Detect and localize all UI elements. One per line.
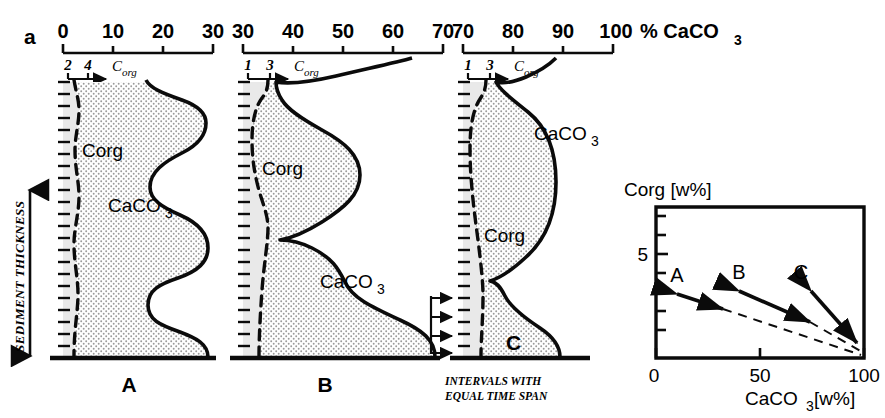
- crossplot-ylabel: Corg [w%]: [624, 179, 712, 200]
- column-C-corg-tick-1: 3: [485, 57, 494, 73]
- column-B-label-caco3-sub: 3: [377, 281, 385, 297]
- column-A-corg-tick-0: 2: [63, 57, 72, 73]
- column-C-label-caco3-sub: 3: [591, 133, 599, 149]
- crossplot-xtick-50: 50: [749, 365, 770, 386]
- column-C-tick-0: 70: [452, 20, 474, 42]
- caco3-unit-label: % CaCO: [640, 20, 719, 42]
- crossplot-xlabel-main: CaCO: [745, 388, 798, 409]
- column-B-tick-1: 40: [282, 20, 304, 42]
- column-C-corg-tick-0: 1: [464, 57, 472, 73]
- crossplot-xtick-100: 100: [848, 365, 880, 386]
- column-C-tick-3: 100: [599, 20, 632, 42]
- column-B-tick-0: 30: [232, 20, 254, 42]
- column-A-label-caco3: CaCO: [108, 195, 161, 216]
- interval-note-line1: INTERVALS WITH: [444, 375, 542, 387]
- crossplot-xlabel-sub: 3: [806, 398, 814, 414]
- column-C-letter: C: [506, 331, 521, 354]
- column-B-tick-3: 60: [382, 20, 404, 42]
- crossplot-label-A: A: [670, 264, 684, 286]
- crossplot-ytick-5: 5: [637, 244, 648, 265]
- column-B-tick-4: 70: [432, 20, 454, 42]
- crossplot-label-B: B: [732, 261, 745, 283]
- column-B-letter: B: [317, 373, 332, 396]
- column-B-corg-tick-1: 3: [265, 57, 274, 73]
- column-C-tick-2: 90: [552, 20, 574, 42]
- column-A-label-caco3-sub: 3: [165, 205, 173, 221]
- column-A-tick-1: 10: [102, 20, 124, 42]
- column-C-label-caco3: CaCO: [534, 123, 587, 144]
- crossplot-xlabel-unit: [w%]: [814, 388, 855, 409]
- column-C-tick-1: 80: [502, 20, 524, 42]
- column-B-corg-axis-label-sub: org: [304, 66, 319, 78]
- column-A-corg-axis-label-sub: org: [122, 66, 137, 78]
- column-A-letter: A: [121, 373, 136, 396]
- column-A-tick-2: 20: [152, 20, 174, 42]
- sediment-thickness-label: SEDIMENT THICKNESS: [12, 201, 27, 352]
- column-B-corg-tick-0: 1: [244, 57, 252, 73]
- column-A-tick-0: 0: [57, 20, 68, 42]
- column-A-label-corg: Corg: [82, 140, 123, 161]
- crossplot-label-C: C: [794, 261, 808, 283]
- column-B-tick-2: 50: [332, 20, 354, 42]
- column-B-label-caco3: CaCO: [320, 271, 373, 292]
- caco3-unit-sub: 3: [734, 32, 742, 48]
- column-B-label-corg: Corg: [262, 158, 303, 179]
- interval-note-line2: EQUAL TIME SPAN: [444, 390, 548, 402]
- column-C-label-corg: Corg: [484, 225, 525, 246]
- crossplot-xtick-0: 0: [649, 365, 660, 386]
- column-A-corg-tick-1: 4: [83, 57, 92, 73]
- column-A-tick-3: 30: [202, 20, 224, 42]
- panel-letter-a: a: [24, 25, 36, 48]
- sediment-figure-svg: a 0 10 20 30 2 4 C org: [0, 0, 885, 418]
- figure-root: a 0 10 20 30 2 4 C org: [0, 0, 885, 418]
